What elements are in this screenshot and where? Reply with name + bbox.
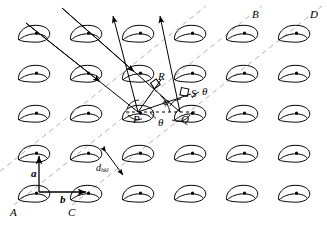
comma-motif bbox=[174, 185, 205, 202]
comma-motif bbox=[174, 65, 205, 82]
comma-motif-tail bbox=[71, 114, 99, 120]
vector-label-a: a bbox=[31, 168, 37, 179]
lattice-point-dot bbox=[35, 152, 38, 155]
lattice-point-dot bbox=[87, 112, 90, 115]
lattice-point-dot bbox=[295, 152, 298, 155]
comma-motif-tail bbox=[175, 154, 203, 160]
lattice-point-dot bbox=[191, 192, 194, 195]
lattice-point-dot bbox=[243, 32, 246, 35]
comma-motif bbox=[278, 105, 309, 122]
comma-motif-tail bbox=[279, 154, 307, 160]
lattice-point-dot bbox=[295, 112, 298, 115]
comma-motif-tail bbox=[279, 34, 307, 40]
comma-motif-tail bbox=[227, 74, 255, 80]
point-label-P: P bbox=[133, 114, 140, 125]
comma-motif-tail bbox=[279, 114, 307, 120]
comma-motif bbox=[278, 185, 309, 202]
angle-label-phi: φ bbox=[163, 96, 169, 107]
plane-label-C: C bbox=[68, 207, 75, 218]
comma-motif-tail bbox=[279, 74, 307, 80]
segment-PR bbox=[138, 79, 162, 112]
comma-motif bbox=[174, 145, 205, 162]
comma-motif-tail bbox=[227, 114, 255, 120]
comma-motif-tail bbox=[123, 34, 151, 40]
vector-label-b: b bbox=[60, 194, 66, 205]
point-label-R: R bbox=[158, 71, 165, 82]
comma-motif bbox=[18, 25, 49, 42]
ray-paths bbox=[26, 8, 196, 112]
lattice-point-dot bbox=[35, 72, 38, 75]
comma-motif bbox=[278, 25, 309, 42]
d-spacing-label: dhkl bbox=[96, 163, 109, 174]
comma-motif bbox=[18, 185, 49, 202]
lattice-point-dot bbox=[243, 72, 246, 75]
comma-motif bbox=[122, 65, 153, 82]
comma-motif-tail bbox=[19, 74, 47, 80]
plane-label-D: D bbox=[310, 9, 318, 20]
lattice-point-dot bbox=[139, 192, 142, 195]
comma-motif-tail bbox=[71, 154, 99, 160]
comma-motif-tail bbox=[71, 194, 99, 200]
lattice-point-dot bbox=[295, 32, 298, 35]
comma-motif-tail bbox=[19, 154, 47, 160]
comma-motif-tail bbox=[123, 154, 151, 160]
lattice-point-dot bbox=[191, 152, 194, 155]
point-label-S: S bbox=[191, 88, 197, 99]
lattice-point-dot bbox=[243, 152, 246, 155]
comma-motif bbox=[122, 185, 153, 202]
comma-motif-tail bbox=[19, 114, 47, 120]
comma-motif bbox=[226, 25, 257, 42]
angle-label-theta-s: θ bbox=[202, 86, 207, 97]
comma-motif bbox=[18, 105, 49, 122]
comma-motif bbox=[70, 105, 101, 122]
lattice-point-dot bbox=[35, 192, 38, 195]
bragg-diffraction-figure: P Q R S A B C D φ θ θ a b dhkl bbox=[0, 0, 327, 229]
comma-motif bbox=[70, 185, 101, 202]
comma-motif bbox=[226, 145, 257, 162]
comma-motif bbox=[278, 65, 309, 82]
angle-label-theta-p: θ bbox=[158, 117, 163, 128]
lattice-point-dot bbox=[35, 112, 38, 115]
comma-motif-tail bbox=[227, 154, 255, 160]
comma-motif-tail bbox=[227, 194, 255, 200]
lattice-point-dot bbox=[243, 112, 246, 115]
diagram-canvas bbox=[0, 0, 327, 229]
comma-motif-tail bbox=[227, 34, 255, 40]
comma-motif-tail bbox=[19, 194, 47, 200]
lattice-point-dot bbox=[87, 192, 90, 195]
comma-motif bbox=[122, 25, 153, 42]
lattice-point-dot bbox=[295, 72, 298, 75]
lattice-point-dot bbox=[191, 32, 194, 35]
lattice-plane-lines bbox=[0, 6, 322, 205]
point-label-Q: Q bbox=[181, 114, 189, 125]
comma-motif-tail bbox=[279, 194, 307, 200]
comma-motif-tail bbox=[175, 34, 203, 40]
comma-motif bbox=[226, 105, 257, 122]
comma-motif bbox=[70, 25, 101, 42]
comma-motif bbox=[278, 145, 309, 162]
lattice-point-dot bbox=[139, 152, 142, 155]
comma-motif bbox=[226, 65, 257, 82]
lattice-point-dot bbox=[295, 192, 298, 195]
lattice-point-dot bbox=[139, 32, 142, 35]
right-angle-S bbox=[180, 88, 189, 97]
comma-motif bbox=[18, 65, 49, 82]
comma-motif bbox=[70, 145, 101, 162]
comma-motif-tail bbox=[71, 74, 99, 80]
d-spacing-label-sub: hkl bbox=[101, 166, 109, 173]
lattice-point-dot bbox=[139, 72, 142, 75]
lattice-point-dot bbox=[87, 152, 90, 155]
comma-motif bbox=[122, 145, 153, 162]
plane-label-A: A bbox=[10, 207, 17, 218]
comma-motif-tail bbox=[175, 194, 203, 200]
lattice-point-dot bbox=[191, 72, 194, 75]
plane-label-B: B bbox=[252, 9, 259, 20]
comma-motif-tail bbox=[175, 74, 203, 80]
comma-motif bbox=[18, 145, 49, 162]
comma-motif-tail bbox=[123, 194, 151, 200]
comma-motif bbox=[226, 185, 257, 202]
lattice-point-dot bbox=[243, 192, 246, 195]
